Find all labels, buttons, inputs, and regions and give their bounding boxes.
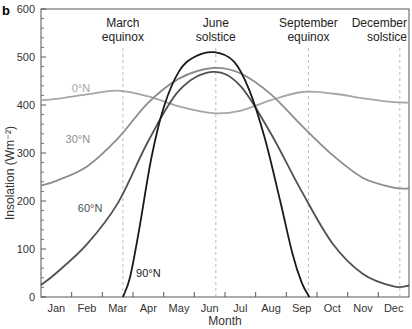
series-label: 30°N: [66, 133, 91, 145]
x-tick-label: Mar: [108, 302, 127, 314]
series-line: [41, 68, 409, 189]
x-tick-label: Aug: [261, 302, 281, 314]
x-tick-label: Oct: [324, 302, 341, 314]
x-tick-label: Sep: [292, 302, 312, 314]
series-line: [41, 91, 409, 114]
x-tick-label: Jan: [47, 302, 65, 314]
plot-frame: [41, 9, 409, 297]
panel-label: b: [2, 3, 10, 18]
event-label: equinox: [102, 30, 144, 44]
x-tick-label: Jun: [201, 302, 219, 314]
series-label: 90°N: [136, 267, 161, 279]
y-tick-label: 500: [17, 51, 35, 63]
y-tick-label: 0: [29, 291, 35, 303]
series-label: 60°N: [78, 202, 103, 214]
y-tick-label: 200: [17, 195, 35, 207]
y-tick-label: 400: [17, 99, 35, 111]
event-label: March: [106, 16, 139, 30]
series-labels: 0°N30°N60°N90°N: [66, 82, 161, 279]
event-label: solstice: [367, 30, 407, 44]
x-tick-label: Nov: [353, 302, 373, 314]
y-axis-label: Insolation (Wm⁻²): [3, 126, 17, 220]
x-tick-label: Dec: [384, 302, 404, 314]
event-markers: MarchequinoxJunesolsticeSeptemberequinox…: [102, 16, 407, 297]
event-label: June: [203, 16, 229, 30]
series-label: 0°N: [72, 82, 91, 94]
x-tick-label: Apr: [140, 302, 157, 314]
x-axis-label: Month: [208, 314, 241, 328]
series-lines: [41, 52, 409, 297]
y-tick-label: 600: [17, 3, 35, 15]
axes: 0100200300400500600JanFebMarAprMayJunJul…: [17, 3, 409, 314]
x-tick-label: Jul: [233, 302, 247, 314]
y-tick-label: 300: [17, 147, 35, 159]
insolation-chart: b 0100200300400500600JanFebMarAprMayJunJ…: [0, 0, 412, 329]
event-label: December: [352, 16, 407, 30]
x-tick-label: May: [169, 302, 190, 314]
event-label: solstice: [196, 30, 236, 44]
series-line: [41, 72, 409, 287]
event-label: September: [279, 16, 338, 30]
event-label: equinox: [287, 30, 329, 44]
y-tick-label: 100: [17, 243, 35, 255]
x-tick-label: Feb: [78, 302, 97, 314]
